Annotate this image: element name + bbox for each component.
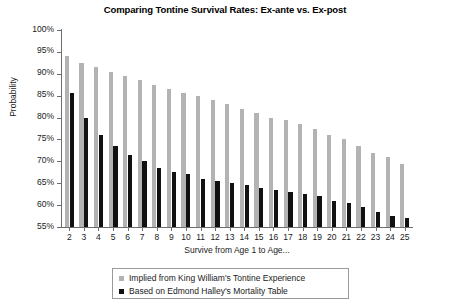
x-axis-tick-label: 5 [106,232,121,242]
x-axis-tick-label: 12 [208,232,223,242]
y-axis-tick-mark [57,205,61,206]
x-axis-tick-mark [259,228,260,231]
bar-ex-ante-age-9 [167,89,171,227]
x-axis-tick-mark [346,228,347,231]
y-axis-tick-label: 70% [37,155,54,165]
y-axis-tick-mark [57,96,61,97]
x-axis-tick-label: 7 [135,232,150,242]
x-axis-tick-label: 6 [120,232,135,242]
bar-group [281,30,296,227]
bar-ex-post-age-7 [142,161,146,227]
bar-ex-post-age-22 [361,207,365,227]
y-axis-tick-mark [57,30,61,31]
y-axis-tick-mark [57,227,61,228]
bar-ex-ante-age-4 [94,67,98,227]
y-axis-tick-mark [57,161,61,162]
bar-ex-post-age-11 [201,179,205,227]
bar-ex-ante-age-13 [225,104,229,227]
bar-group [397,30,412,227]
bar-group [325,30,340,227]
bar-group [222,30,237,227]
bar-ex-post-age-6 [128,155,132,227]
bar-ex-ante-age-2 [65,56,69,227]
bar-ex-ante-age-24 [386,157,390,227]
bar-ex-ante-age-15 [254,113,258,227]
bar-ex-ante-age-8 [152,85,156,227]
legend-swatch-ex-post [119,289,124,294]
bar-group [193,30,208,227]
x-axis-tick-label: 15 [252,232,267,242]
bar-ex-ante-age-10 [181,93,185,227]
bar-group [106,30,121,227]
x-axis-tick-label: 2 [62,232,77,242]
x-axis-tick-mark [244,228,245,231]
bar-group [252,30,267,227]
bar-ex-post-age-24 [390,216,394,227]
y-axis-tick-label: 60% [37,199,54,209]
x-axis-tick-mark [157,228,158,231]
x-axis-tick-mark [69,228,70,231]
y-axis-tick-mark [57,74,61,75]
y-axis-tick-label: 85% [37,89,54,99]
x-axis-tick-label: 11 [193,232,208,242]
legend-item: Based on Edmond Halley's Mortality Table [119,285,343,297]
bar-group [266,30,281,227]
bar-ex-post-age-14 [245,185,249,227]
x-axis-tick-mark [186,228,187,231]
chart-legend: Implied from King William's Tontine Expe… [112,268,349,299]
bar-ex-ante-age-23 [371,153,375,227]
x-axis-tick-label: 22 [354,232,369,242]
bar-ex-post-age-13 [230,183,234,227]
bar-ex-post-age-20 [332,201,336,227]
bar-ex-ante-age-16 [269,118,273,227]
bar-ex-post-age-18 [303,194,307,227]
chart-title: Comparing Tontine Survival Rates: Ex-ant… [0,4,450,15]
bar-group [295,30,310,227]
x-axis-tick-mark [142,228,143,231]
bar-ex-ante-age-14 [240,109,244,227]
x-axis-tick-label: 17 [281,232,296,242]
x-axis-tick-label: 20 [325,232,340,242]
bar-group [120,30,135,227]
y-axis-tick-label: 55% [37,221,54,231]
x-axis-tick-mark [201,228,202,231]
x-axis-tick-mark [390,228,391,231]
x-axis-tick-mark [113,228,114,231]
bar-group [354,30,369,227]
x-axis-tick-label: 3 [77,232,92,242]
bar-group [339,30,354,227]
bar-group [310,30,325,227]
bar-ex-post-age-19 [317,196,321,227]
bar-ex-post-age-15 [259,188,263,227]
bar-ex-ante-age-17 [284,120,288,227]
bar-ex-post-age-8 [157,168,161,227]
x-axis-tick-label: 21 [339,232,354,242]
bar-group [237,30,252,227]
x-axis-tick-mark [273,228,274,231]
x-axis-tick-mark [171,228,172,231]
x-axis-tick-label: 9 [164,232,179,242]
bar-ex-post-age-3 [84,118,88,227]
x-axis-tick-label: 18 [295,232,310,242]
bar-ex-ante-age-3 [79,63,83,227]
x-axis-tick-mark [84,228,85,231]
bar-ex-post-age-21 [347,203,351,227]
bar-ex-ante-age-21 [342,139,346,227]
bar-ex-ante-age-6 [123,76,127,227]
chart-container: Comparing Tontine Survival Rates: Ex-ant… [0,0,450,304]
bar-ex-ante-age-12 [211,100,215,227]
bar-group [208,30,223,227]
x-axis-tick-label: 24 [383,232,398,242]
legend-label: Implied from King William's Tontine Expe… [129,273,305,284]
x-axis-tick-label: 4 [91,232,106,242]
bar-group [179,30,194,227]
bar-ex-post-age-10 [186,174,190,227]
bar-group [164,30,179,227]
bar-ex-ante-age-18 [298,124,302,227]
legend-item: Implied from King William's Tontine Expe… [119,272,343,284]
bar-group [383,30,398,227]
y-axis-tick-mark [57,118,61,119]
bar-ex-ante-age-25 [400,164,404,227]
bar-ex-ante-age-19 [313,129,317,228]
bar-ex-ante-age-22 [356,146,360,227]
